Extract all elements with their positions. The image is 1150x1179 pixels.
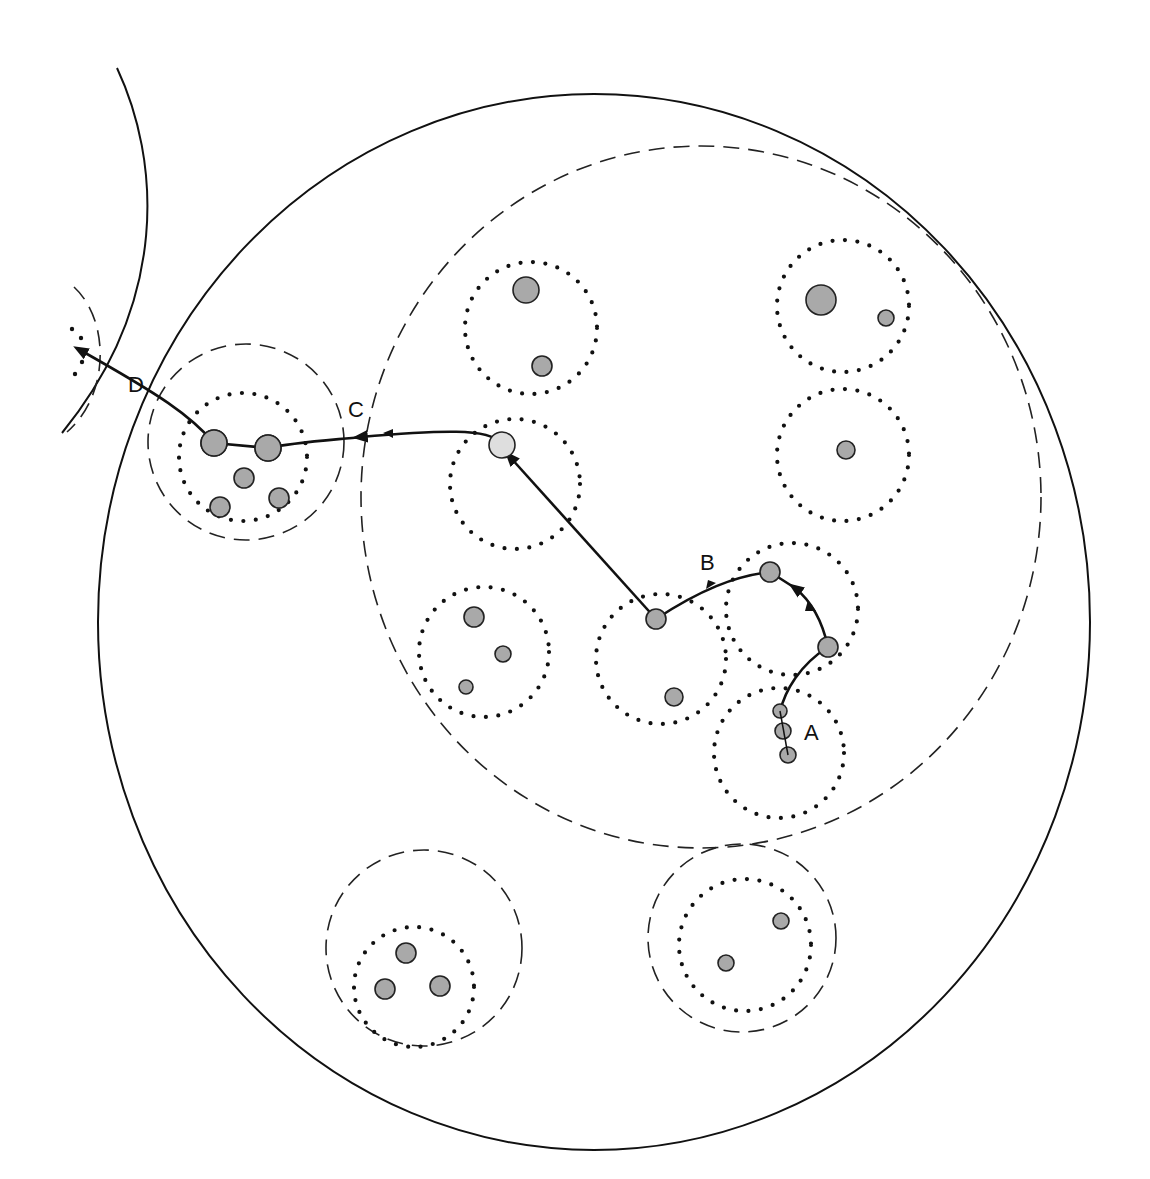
member-dot	[878, 310, 894, 326]
path-node	[646, 609, 666, 629]
member-dot	[773, 913, 789, 929]
dotted-cluster	[726, 543, 858, 675]
dotted-cluster	[777, 240, 909, 372]
member-dot	[269, 488, 289, 508]
migration-path-c-continue	[214, 437, 362, 448]
migration-path-to-light	[510, 457, 656, 619]
migration-path-b-to-node	[656, 572, 770, 619]
label-d: D	[128, 372, 144, 397]
member-dot	[665, 688, 683, 706]
member-dot	[718, 955, 734, 971]
member-dot	[210, 497, 230, 517]
light-node	[489, 432, 515, 458]
member-dot	[513, 277, 539, 303]
member-dot	[464, 607, 484, 627]
arrow-head-icon	[383, 429, 393, 438]
migration-path-c	[360, 432, 500, 443]
diagram-canvas: A B C D	[0, 0, 1150, 1179]
path-node	[760, 562, 780, 582]
large-dashed-group	[361, 146, 1041, 848]
member-dot	[495, 646, 511, 662]
member-dot	[532, 356, 552, 376]
member-dot	[837, 441, 855, 459]
member-dot	[234, 468, 254, 488]
member-dot	[430, 976, 450, 996]
member-dot	[396, 943, 416, 963]
migration-path-b-segment	[770, 572, 828, 647]
label-b: B	[700, 550, 715, 575]
bottom-right-dashed-group	[648, 844, 836, 1032]
member-dot	[459, 680, 473, 694]
path-node	[201, 430, 227, 456]
outer-boundary-circle	[98, 94, 1090, 1150]
label-a: A	[804, 720, 819, 745]
bottom-left-dashed-group	[326, 850, 522, 1046]
path-node	[818, 637, 838, 657]
dotted-cluster	[354, 927, 474, 1047]
dotted-cluster	[679, 879, 811, 1011]
dotted-cluster	[419, 587, 549, 717]
label-c: C	[348, 397, 364, 422]
dotted-cluster	[450, 419, 580, 549]
member-dot	[375, 979, 395, 999]
member-dot	[806, 285, 836, 315]
path-node	[255, 435, 281, 461]
